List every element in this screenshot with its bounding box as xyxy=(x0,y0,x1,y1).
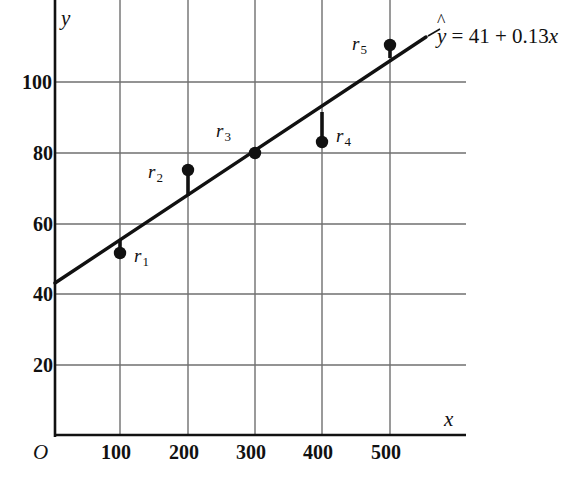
residual-label-r1-text: r xyxy=(134,245,141,266)
residual-label-r5: r5 xyxy=(352,33,366,55)
y-tick-label-80: 80 xyxy=(33,142,53,165)
y-tick-label-40: 40 xyxy=(33,283,53,306)
residual-label-r3: r3 xyxy=(216,120,230,142)
data-point-r3 xyxy=(249,147,261,159)
residual-label-r2: r2 xyxy=(148,161,162,183)
y-tick-label-100: 100 xyxy=(22,71,52,94)
equation-body: = 41 + 0.13 xyxy=(452,24,549,48)
data-point-r5 xyxy=(384,39,396,51)
residual-label-r3-sub: 3 xyxy=(224,129,231,144)
residual-label-r4: r4 xyxy=(336,125,350,147)
data-point-r2 xyxy=(182,164,194,176)
x-tick-label-400: 400 xyxy=(303,441,333,464)
data-point-r1 xyxy=(114,247,126,259)
regression-equation-label: ^y = 41 + 0.13x xyxy=(437,24,558,49)
y-axis-label: y xyxy=(61,6,70,31)
plot-canvas xyxy=(0,0,584,491)
data-point-r4 xyxy=(316,136,328,148)
y-tick-label-20: 20 xyxy=(33,354,53,377)
x-tick-label-200: 200 xyxy=(169,441,199,464)
residual-label-r1-sub: 1 xyxy=(142,254,149,269)
hat-accent-icon: ^ xyxy=(437,13,445,31)
regression-line xyxy=(55,37,426,283)
equation-x-var: x xyxy=(549,24,558,48)
regression-residual-plot: 100 80 60 40 20 100 200 300 400 500 O x … xyxy=(0,0,584,491)
x-tick-label-500: 500 xyxy=(371,441,401,464)
residual-label-r2-text: r xyxy=(148,161,155,182)
x-axis-label: x xyxy=(444,407,453,432)
vertical-gridlines xyxy=(120,0,390,435)
y-tick-label-60: 60 xyxy=(33,213,53,236)
residual-label-r4-sub: 4 xyxy=(344,134,351,149)
y-hat-symbol: ^y xyxy=(437,24,446,49)
residual-label-r1: r1 xyxy=(134,245,148,267)
origin-label: O xyxy=(33,440,48,465)
residual-label-r5-sub: 5 xyxy=(360,42,367,57)
residual-label-r2-sub: 2 xyxy=(156,170,163,185)
residual-label-r4-text: r xyxy=(336,125,343,146)
x-tick-label-100: 100 xyxy=(101,441,131,464)
horizontal-gridlines xyxy=(55,82,466,365)
x-tick-label-300: 300 xyxy=(236,441,266,464)
residual-label-r5-text: r xyxy=(352,33,359,54)
residual-label-r3-text: r xyxy=(216,120,223,141)
